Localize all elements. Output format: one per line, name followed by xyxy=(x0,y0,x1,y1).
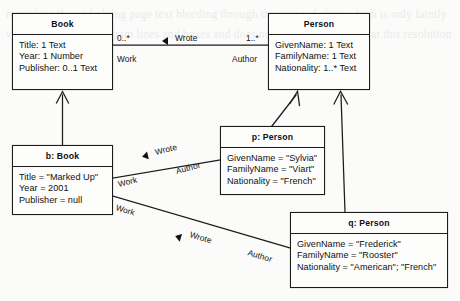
slot: FamilyName = "Viart" xyxy=(227,164,324,176)
association-source-role: Work xyxy=(117,55,137,63)
attribute: FamilyName: 1 Text xyxy=(275,51,369,63)
association-direction-triangle-icon xyxy=(162,37,168,45)
association-name: Wrote xyxy=(175,34,197,42)
instance-line-q-person xyxy=(341,95,345,212)
association-source-multiplicity: 0..* xyxy=(117,34,130,42)
attribute: Year: 1 Number xyxy=(19,51,112,63)
object-name-p-person: p: Person xyxy=(221,127,324,148)
object-box-p-person[interactable]: p: Person GivenName = "Sylvia" FamilyNam… xyxy=(220,126,325,195)
open-arrowhead-p-person xyxy=(290,91,300,105)
slot: Publisher = null xyxy=(19,195,112,207)
attribute: Nationality: 1..* Text xyxy=(275,63,369,75)
class-attributes-person: GivenName: 1 Text FamilyName: 1 Text Nat… xyxy=(269,35,369,80)
diagram-canvas: reproduce the underlying page text bleed… xyxy=(0,0,460,301)
slot: FamilyName = "Rooster" xyxy=(297,250,447,262)
class-box-person[interactable]: Person GivenName: 1 Text FamilyName: 1 T… xyxy=(268,13,370,90)
slot: GivenName = "Sylvia" xyxy=(227,153,324,165)
slot: Year = 2001 xyxy=(19,183,112,195)
association-target-multiplicity: 1..* xyxy=(246,34,259,42)
association-target-role: Author xyxy=(232,55,257,63)
attribute: Publisher: 0..1 Text xyxy=(19,63,112,75)
object-slots-q-person: GivenName = "Frederick" FamilyName = "Ro… xyxy=(291,234,447,279)
object-slots-p-person: GivenName = "Sylvia" FamilyName = "Viart… xyxy=(221,148,324,193)
object-name-q-person: q: Person xyxy=(291,213,447,234)
object-box-b-book[interactable]: b: Book Title = "Marked Up" Year = 2001 … xyxy=(12,145,113,215)
slot: GivenName = "Frederick" xyxy=(297,239,447,251)
class-attributes-book: Title: 1 Text Year: 1 Number Publisher: … xyxy=(13,35,112,80)
class-box-book[interactable]: Book Title: 1 Text Year: 1 Number Publis… xyxy=(12,13,113,90)
slot: Nationality = "French" xyxy=(227,176,324,188)
object-name-b-book: b: Book xyxy=(13,146,112,167)
attribute: GivenName: 1 Text xyxy=(275,40,369,52)
object-box-q-person[interactable]: q: Person GivenName = "Frederick" Family… xyxy=(290,212,448,288)
slot: Title = "Marked Up" xyxy=(19,172,112,184)
class-name-person: Person xyxy=(269,14,369,35)
class-name-book: Book xyxy=(13,14,112,35)
slot: Nationality = "American"; "French" xyxy=(297,262,447,274)
attribute: Title: 1 Text xyxy=(19,40,112,52)
object-slots-b-book: Title = "Marked Up" Year = 2001 Publishe… xyxy=(13,167,112,212)
